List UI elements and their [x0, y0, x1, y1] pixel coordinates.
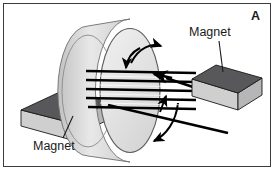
- figure-container: Magnet Magnet A: [0, 0, 275, 171]
- label-magnet-left: Magnet: [33, 140, 75, 153]
- panel-letter: A: [251, 10, 260, 23]
- label-magnet-right: Magnet: [189, 26, 231, 39]
- magnet-block-right: [192, 65, 262, 110]
